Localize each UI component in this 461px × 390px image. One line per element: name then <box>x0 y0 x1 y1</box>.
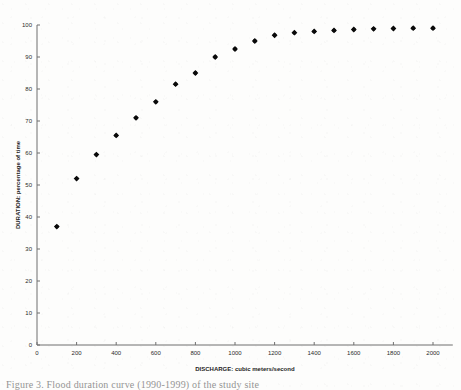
data-point <box>94 152 100 158</box>
data-point-series <box>54 25 436 229</box>
x-tick-label: 800 <box>190 350 201 356</box>
data-point <box>173 81 179 87</box>
data-point <box>272 32 278 38</box>
x-axis-title: DISCHARGE: cubic meters/second <box>195 366 295 372</box>
y-tick-label: 20 <box>25 278 32 284</box>
data-point <box>252 38 258 44</box>
data-point <box>193 70 199 76</box>
data-point <box>232 46 238 52</box>
y-tick-label: 40 <box>25 214 32 220</box>
figure-container: 0200400600800100012001400160018002000 01… <box>0 0 461 390</box>
y-tick-label: 100 <box>22 22 33 28</box>
data-point <box>331 28 337 34</box>
x-tick-label: 1200 <box>268 350 282 356</box>
x-tick-label: 1400 <box>308 350 322 356</box>
data-point <box>391 26 397 32</box>
y-axis-tick-labels: 0102030405060708090100 <box>22 22 33 348</box>
y-tick-label: 90 <box>25 54 32 60</box>
y-tick-label: 80 <box>25 86 32 92</box>
data-point <box>292 30 298 36</box>
y-tick-label: 10 <box>25 310 32 316</box>
chart-tick-marks <box>37 25 433 345</box>
x-tick-label: 200 <box>72 350 83 356</box>
x-tick-label: 600 <box>151 350 162 356</box>
data-point <box>133 115 139 121</box>
data-point <box>371 26 377 32</box>
data-point <box>74 176 80 182</box>
y-tick-label: 70 <box>25 118 32 124</box>
data-point <box>430 25 436 31</box>
y-tick-label: 0 <box>29 342 33 348</box>
data-point <box>410 25 416 31</box>
y-tick-label: 60 <box>25 150 32 156</box>
x-tick-label: 1800 <box>387 350 401 356</box>
data-point <box>113 133 119 139</box>
y-axis-title: DURATION: percentage of time <box>15 140 21 229</box>
duration-curve-chart: 0200400600800100012001400160018002000 01… <box>0 0 461 390</box>
data-point <box>54 224 60 230</box>
data-point <box>311 29 317 35</box>
data-point <box>351 27 357 33</box>
x-tick-label: 2000 <box>426 350 440 356</box>
y-tick-label: 50 <box>25 182 32 188</box>
x-axis-tick-labels: 0200400600800100012001400160018002000 <box>35 350 440 356</box>
x-tick-label: 0 <box>35 350 39 356</box>
figure-caption: Figure 3. Flood duration curve (1990-199… <box>6 379 456 390</box>
x-tick-label: 1600 <box>347 350 361 356</box>
x-tick-label: 400 <box>111 350 122 356</box>
data-point <box>212 54 218 60</box>
x-tick-label: 1000 <box>228 350 242 356</box>
data-point <box>153 99 159 105</box>
y-tick-label: 30 <box>25 246 32 252</box>
chart-axes <box>37 25 453 345</box>
